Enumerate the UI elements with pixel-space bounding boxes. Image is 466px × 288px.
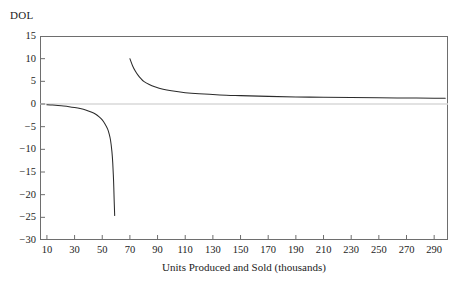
x-axis-tick-labels: 1030507090110130150170190210230250270290 xyxy=(0,0,466,288)
x-tick-label: 290 xyxy=(414,244,454,255)
x-axis-title: Units Produced and Sold (thousands) xyxy=(40,261,448,274)
dol-chart-figure: DOL 151050−5−10−15−20−25−30 103050709011… xyxy=(0,0,466,288)
